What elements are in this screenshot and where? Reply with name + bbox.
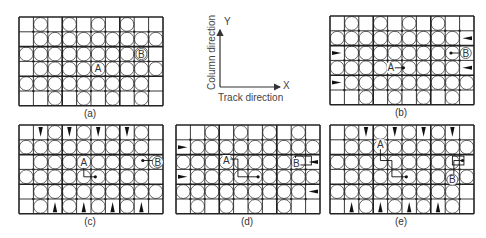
- pin-circle-icon: [417, 31, 431, 45]
- panel-b: AB: [329, 15, 475, 106]
- pin-circle-icon: [191, 155, 205, 169]
- pin-circle-icon: [345, 31, 359, 45]
- pin-circle-icon: [417, 140, 431, 154]
- pin-circle-icon: [135, 32, 149, 46]
- pin-circle-icon: [330, 61, 344, 75]
- pin-circle-icon: [91, 32, 105, 46]
- grid-e: AB: [329, 124, 475, 215]
- pin-circle-icon: [345, 170, 359, 184]
- column-direction-caption: Column direction: [206, 15, 217, 90]
- pin-circle-icon: [374, 61, 388, 75]
- pin-circle-icon: [292, 170, 306, 184]
- pin-circle-icon: [106, 170, 120, 184]
- pin-circle-icon: [19, 140, 33, 154]
- pin-circle-icon: [120, 47, 134, 61]
- pin-circle-icon: [191, 170, 205, 184]
- pin-circle-icon: [359, 61, 373, 75]
- pin-circle-icon: [106, 62, 120, 76]
- pin-circle-icon: [431, 155, 445, 169]
- pin-circle-icon: [106, 126, 120, 140]
- grid-c: AB: [18, 124, 164, 215]
- pin-circle-icon: [34, 62, 48, 76]
- pin-circle-icon: [120, 170, 134, 184]
- arrow-right-icon: [332, 51, 341, 55]
- pin-circle-icon: [431, 170, 445, 184]
- pin-circle-icon: [135, 62, 149, 76]
- pin-circle-icon: [48, 185, 62, 199]
- pin-circle-icon: [374, 185, 388, 199]
- pin-circle-icon: [417, 91, 431, 105]
- pin-circle-icon: [48, 77, 62, 91]
- pin-circle-icon: [402, 46, 416, 60]
- pin-circle-icon: [106, 47, 120, 61]
- pin-circle-icon: [402, 17, 416, 31]
- pin-circle-icon: [359, 185, 373, 199]
- pin-circle-icon: [417, 200, 431, 214]
- pin-circle-icon: [34, 170, 48, 184]
- pin-circle-icon: [292, 140, 306, 154]
- marker-a: A: [223, 155, 230, 166]
- marker-a: A: [95, 63, 102, 74]
- pin-circle-icon: [91, 77, 105, 91]
- pin-circle-icon: [34, 200, 48, 214]
- pin-circle-icon: [191, 185, 205, 199]
- pin-circle-icon: [446, 91, 460, 105]
- pin-circle-icon: [77, 92, 91, 106]
- pin-circle-icon: [63, 18, 77, 32]
- pin-circle-icon: [120, 77, 134, 91]
- pin-circle-icon: [330, 155, 344, 169]
- pin-circle-icon: [205, 126, 219, 140]
- pin-circle-icon: [306, 170, 320, 184]
- panel-label-a: (a): [70, 108, 110, 119]
- pin-circle-icon: [120, 200, 134, 214]
- pin-circle-icon: [106, 185, 120, 199]
- marker-a: A: [377, 139, 384, 150]
- panel-label-c: (c): [70, 216, 110, 227]
- pin-circle-icon: [234, 155, 248, 169]
- pin-circle-icon: [106, 77, 120, 91]
- axis-diagram: Y X Column direction Track direction: [200, 12, 310, 112]
- pin-circle-icon: [220, 200, 234, 214]
- marker-b: B: [293, 158, 300, 169]
- pin-circle-icon: [388, 185, 402, 199]
- panel-a: AB: [18, 16, 164, 107]
- pin-circle-icon: [374, 31, 388, 45]
- pin-circle-icon: [277, 200, 291, 214]
- pin-circle-icon: [431, 61, 445, 75]
- pin-circle-icon: [77, 185, 91, 199]
- pin-circle-icon: [446, 76, 460, 90]
- pin-circle-icon: [388, 76, 402, 90]
- marker-b: B: [138, 49, 145, 60]
- pin-circle-icon: [446, 61, 460, 75]
- pin-circle-icon: [417, 170, 431, 184]
- pin-circle-icon: [431, 17, 445, 31]
- pin-circle-icon: [106, 140, 120, 154]
- pin-circle-icon: [460, 140, 474, 154]
- pin-circle-icon: [345, 140, 359, 154]
- pin-circle-icon: [48, 62, 62, 76]
- pin-circle-icon: [106, 155, 120, 169]
- pin-circle-icon: [120, 155, 134, 169]
- pin-circle-icon: [63, 170, 77, 184]
- pin-circle-icon: [417, 76, 431, 90]
- pin-circle-icon: [135, 77, 149, 91]
- pin-circle-icon: [77, 47, 91, 61]
- pin-circle-icon: [292, 185, 306, 199]
- pin-circle-icon: [446, 185, 460, 199]
- pin-circle-icon: [34, 77, 48, 91]
- pin-circle-icon: [402, 31, 416, 45]
- pin-circle-icon: [417, 61, 431, 75]
- arrow-left-icon: [463, 36, 472, 40]
- pin-circle-icon: [34, 185, 48, 199]
- pin-circle-icon: [135, 92, 149, 106]
- pin-circle-icon: [91, 185, 105, 199]
- pin-circle-icon: [220, 170, 234, 184]
- pin-circle-icon: [77, 140, 91, 154]
- marker-a: A: [80, 157, 87, 168]
- pin-circle-icon: [374, 170, 388, 184]
- pin-circle-icon: [191, 140, 205, 154]
- panel-d: AB: [175, 124, 321, 215]
- panel-label-e: (e): [381, 216, 421, 227]
- pin-circle-icon: [135, 126, 149, 140]
- pin-circle-icon: [34, 155, 48, 169]
